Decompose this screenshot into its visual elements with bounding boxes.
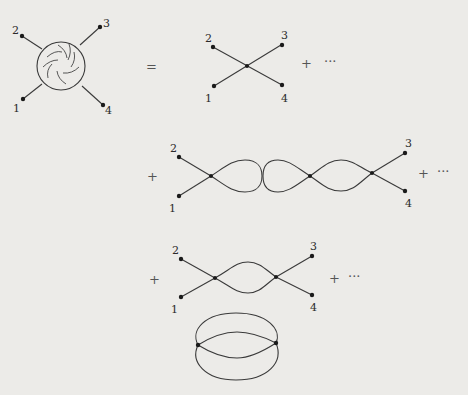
blob-label-3: 3	[103, 17, 110, 30]
vacuum-bubble-diagram	[196, 313, 278, 380]
label-3: 3	[310, 240, 317, 253]
blob-label-4: 4	[105, 104, 112, 117]
label-2: 2	[172, 244, 179, 257]
one-loop-bubble-diagram: 2 1 3 4	[171, 240, 317, 316]
label-4: 4	[405, 197, 412, 210]
ellipsis: ···	[437, 164, 449, 179]
plus-sign: +	[147, 169, 158, 184]
ellipsis: ···	[324, 54, 336, 69]
tadpole-and-double-bubble-diagram: 2 1 3 4	[169, 137, 412, 215]
label-1: 1	[171, 303, 178, 316]
plus-sign: +	[329, 271, 340, 286]
label-1: 1	[169, 202, 176, 215]
label-4: 4	[310, 301, 317, 314]
label-2: 2	[205, 32, 212, 45]
label-2: 2	[170, 142, 177, 155]
equals-sign: =	[146, 59, 157, 74]
label-4: 4	[281, 92, 288, 105]
ellipsis: ···	[348, 269, 360, 284]
plus-sign: +	[418, 166, 429, 181]
label-1: 1	[205, 92, 212, 105]
tree-level-vertex-diagram: 2 3 1 4	[205, 29, 288, 105]
blob-label-2: 2	[12, 24, 19, 37]
plus-sign: +	[301, 56, 312, 71]
blob-label-1: 1	[13, 102, 20, 115]
feynman-diagram-figure: 2 3 1 4 = 2 3 1 4 + ··· +	[0, 0, 468, 395]
swirl-pattern	[43, 44, 79, 84]
label-3: 3	[281, 29, 288, 42]
plus-sign: +	[149, 272, 160, 287]
label-3: 3	[405, 137, 412, 150]
blob-diagram: 2 3 1 4	[12, 17, 112, 117]
